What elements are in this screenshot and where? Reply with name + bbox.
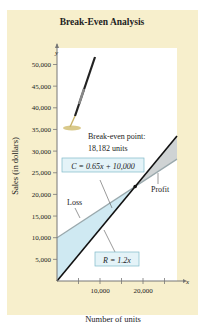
x-tick-label: 20,000 bbox=[133, 287, 153, 295]
y-tick-label: 50,000 bbox=[32, 61, 52, 69]
revenue-equation-label: R = 1.2x bbox=[102, 256, 131, 265]
break-even-chart: 5,00010,00015,00020,00025,00030,00035,00… bbox=[0, 0, 204, 329]
y-axis-label: Sales (in dollars) bbox=[10, 137, 20, 195]
break-even-point-marker bbox=[133, 185, 137, 189]
y-tick-label: 45,000 bbox=[32, 83, 52, 91]
y-tick-label: 5,000 bbox=[35, 256, 51, 264]
y-tick-label: 20,000 bbox=[32, 191, 52, 199]
y-tick-label: 35,000 bbox=[32, 126, 52, 134]
cost-equation-label: C = 0.65x + 10,000 bbox=[71, 162, 135, 171]
x-tick-label: 10,000 bbox=[90, 287, 110, 295]
y-tick-label: 25,000 bbox=[32, 169, 52, 177]
break-even-annotation-line2: 18,182 units bbox=[88, 144, 128, 153]
y-tick-label: 40,000 bbox=[32, 104, 52, 112]
x-axis-symbol: x bbox=[185, 278, 190, 286]
y-tick-label: 30,000 bbox=[32, 148, 52, 156]
profit-label: Profit bbox=[151, 185, 170, 194]
y-tick-label: 10,000 bbox=[32, 234, 52, 242]
loss-label: Loss bbox=[67, 198, 82, 207]
break-even-annotation-line1: Break-even point: bbox=[88, 132, 146, 141]
x-axis-label: Number of units bbox=[85, 314, 141, 324]
chart-title: Break-Even Analysis bbox=[60, 17, 145, 27]
y-tick-label: 15,000 bbox=[32, 213, 52, 221]
y-axis-arrow bbox=[55, 43, 59, 48]
